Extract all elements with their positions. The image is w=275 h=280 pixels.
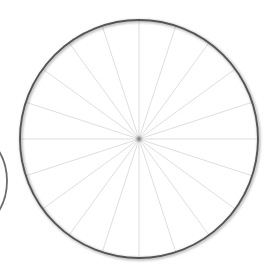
wheel-svg [0,0,275,280]
wheel-diagram-canvas: Spoked wheel diagram [0,0,275,280]
hub [137,137,142,142]
main-wheel [20,20,258,258]
